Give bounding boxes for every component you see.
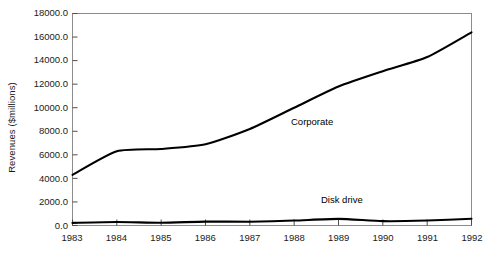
series-label-disk-drive: Disk drive — [321, 194, 363, 205]
plot-area — [0, 0, 493, 255]
y-axis-tick-marks — [73, 14, 78, 226]
series-line-corporate — [73, 32, 472, 175]
series-line-disk-drive — [73, 219, 472, 223]
series-label-corporate: Corporate — [291, 116, 333, 127]
chart-figure: Revenues ($millions) 18000.0 16000.0 140… — [0, 0, 493, 255]
